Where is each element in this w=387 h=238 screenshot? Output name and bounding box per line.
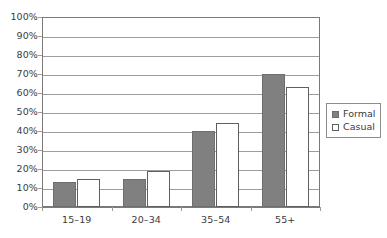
y-tick-mark: [38, 93, 42, 94]
bar-formal: [53, 182, 76, 207]
legend: Formal Casual: [326, 103, 381, 138]
y-tick-mark: [38, 169, 42, 170]
y-tick-label: 100%: [2, 12, 38, 22]
bar-chart: 0%10%20%30%40%50%60%70%80%90%100% 15–192…: [0, 0, 387, 238]
legend-swatch-casual-icon: [332, 124, 339, 131]
y-tick-label: 20%: [2, 164, 38, 174]
legend-label-formal: Formal: [343, 109, 375, 119]
x-tick-mark: [112, 207, 113, 211]
y-tick-mark: [38, 74, 42, 75]
bar-formal: [262, 74, 285, 207]
bar-casual: [77, 179, 100, 208]
y-tick-mark: [38, 188, 42, 189]
x-tick-mark: [251, 207, 252, 211]
y-tick-label: 50%: [2, 107, 38, 117]
bar-casual: [216, 123, 239, 207]
y-tick-label: 80%: [2, 50, 38, 60]
y-tick-label: 0%: [2, 202, 38, 212]
legend-item-casual: Casual: [332, 121, 375, 133]
x-tick-mark: [181, 207, 182, 211]
bar-formal: [192, 131, 215, 207]
y-tick-label: 10%: [2, 183, 38, 193]
y-axis: 0%10%20%30%40%50%60%70%80%90%100%: [0, 0, 38, 238]
legend-item-formal: Formal: [332, 108, 375, 120]
y-tick-mark: [38, 112, 42, 113]
bar-casual: [286, 87, 309, 207]
y-tick-mark: [38, 55, 42, 56]
x-tick-label: 55+: [251, 215, 321, 225]
x-tick-mark: [42, 207, 43, 211]
y-tick-label: 60%: [2, 88, 38, 98]
y-tick-mark: [38, 36, 42, 37]
y-tick-mark: [38, 150, 42, 151]
y-tick-label: 90%: [2, 31, 38, 41]
x-tick-mark: [320, 207, 321, 211]
x-tick-label: 35–54: [181, 215, 251, 225]
x-tick-label: 20–34: [112, 215, 182, 225]
y-tick-mark: [38, 17, 42, 18]
bars-layer: [42, 17, 320, 207]
y-tick-label: 70%: [2, 69, 38, 79]
legend-label-casual: Casual: [343, 122, 375, 132]
y-tick-mark: [38, 131, 42, 132]
y-tick-label: 40%: [2, 126, 38, 136]
bar-formal: [123, 179, 146, 208]
y-tick-label: 30%: [2, 145, 38, 155]
legend-swatch-formal-icon: [332, 111, 339, 118]
bar-casual: [147, 171, 170, 207]
x-tick-label: 15–19: [42, 215, 112, 225]
